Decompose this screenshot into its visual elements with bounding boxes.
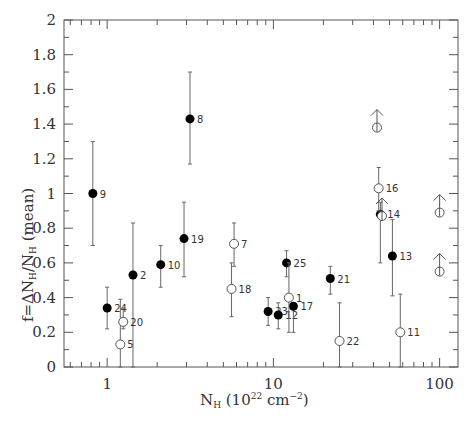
data-point: 25 xyxy=(282,251,306,277)
scatter-chart: 00.20.40.60.811.21.41.61.82 110100 92421… xyxy=(0,0,472,427)
point-label: 12 xyxy=(285,310,298,321)
data-point: 21 xyxy=(326,266,350,294)
point-label: 25 xyxy=(294,258,307,269)
point-label: 17 xyxy=(300,301,313,312)
x-tick-label: 100 xyxy=(425,375,454,393)
y-axis-label: f=ΔNH/NH (mean) xyxy=(19,188,38,322)
x-axis: 110100 xyxy=(70,20,454,393)
point-label: 20 xyxy=(130,317,143,328)
data-point: 18 xyxy=(227,263,251,317)
data-point xyxy=(376,198,388,221)
point-label: 16 xyxy=(386,183,399,194)
data-point xyxy=(371,110,383,133)
point-label: 10 xyxy=(168,260,181,271)
point-label: 7 xyxy=(241,239,247,250)
y-tick-label: 1.4 xyxy=(32,115,56,133)
point-label: 13 xyxy=(399,251,412,262)
data-point: 13 xyxy=(388,220,412,296)
y-tick-label: 0 xyxy=(46,358,56,376)
point-label: 19 xyxy=(191,234,204,245)
data-point: 8 xyxy=(185,72,203,164)
data-point xyxy=(434,254,446,277)
point-label: 22 xyxy=(347,336,360,347)
data-point: 22 xyxy=(335,303,359,367)
point-label: 21 xyxy=(337,274,350,285)
point-label: 11 xyxy=(407,327,420,338)
point-label: 18 xyxy=(239,284,252,295)
y-tick-label: 1.8 xyxy=(32,46,56,64)
data-point: 16 xyxy=(374,167,398,210)
data-point: 9 xyxy=(88,141,106,245)
point-label: 5 xyxy=(127,339,133,350)
y-tick-label: 2 xyxy=(46,11,56,29)
y-tick-label: 0.2 xyxy=(32,323,56,341)
data-point: 11 xyxy=(396,294,420,367)
y-tick-label: 1.6 xyxy=(32,80,56,98)
data-point xyxy=(434,195,446,218)
y-tick-label: 1 xyxy=(46,185,56,203)
point-label: 9 xyxy=(100,189,106,200)
data-point: 10 xyxy=(156,246,180,288)
point-label: 8 xyxy=(197,114,203,125)
x-axis-label: NH (1022 cm−2) xyxy=(200,391,309,410)
point-label: 1 xyxy=(296,293,302,304)
x-tick-label: 1 xyxy=(102,375,112,393)
data-points: 924210198231217252114135207181221611 xyxy=(88,72,445,367)
y-tick-label: 1.2 xyxy=(32,150,56,168)
data-point: 19 xyxy=(180,202,204,277)
point-label: 2 xyxy=(140,270,146,281)
data-point: 7 xyxy=(230,223,248,266)
point-label: 14 xyxy=(387,209,400,220)
